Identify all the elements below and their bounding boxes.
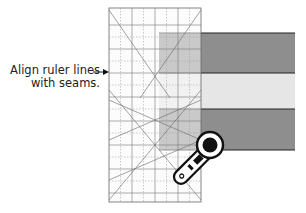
- callout-label: Align ruler lines with seams.: [8, 64, 100, 90]
- quilting-diagram: [0, 0, 306, 213]
- callout-line-2: with seams.: [8, 77, 100, 90]
